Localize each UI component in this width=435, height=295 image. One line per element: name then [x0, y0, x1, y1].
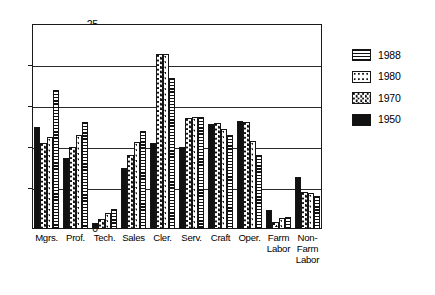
- legend-swatch-icon: [352, 92, 371, 104]
- x-axis-label: Craft: [206, 232, 235, 266]
- bar: [314, 196, 320, 229]
- legend-swatch-icon: [352, 71, 371, 83]
- bar-group: [32, 24, 61, 229]
- bar: [198, 117, 204, 229]
- legend-label: 1970: [378, 93, 401, 104]
- legend-swatch-icon: [352, 49, 371, 61]
- x-axis-label: Cler.: [148, 232, 177, 266]
- legend-swatch-icon: [352, 114, 371, 126]
- bar-group: [293, 24, 322, 229]
- legend-item[interactable]: 1980: [352, 68, 430, 86]
- x-axis-labels: Mgrs.Prof.Tech.SalesCler.Serv.CraftOper.…: [32, 232, 322, 266]
- bar-group: [264, 24, 293, 229]
- bar-chart: 25 20 15 10 5 0 Mgrs.Prof.Tech.SalesCler…: [0, 0, 435, 295]
- bar: [256, 155, 262, 229]
- x-axis-label: Serv.: [177, 232, 206, 266]
- x-axis-label: Tech.: [90, 232, 119, 266]
- bar-group: [206, 24, 235, 229]
- bar-groups: [32, 24, 322, 229]
- bar-group: [119, 24, 148, 229]
- bar: [285, 217, 291, 229]
- legend-item[interactable]: 1988: [352, 46, 430, 64]
- bar: [53, 90, 59, 229]
- bar: [227, 135, 233, 229]
- bar-group: [90, 24, 119, 229]
- bar: [140, 131, 146, 229]
- bar: [82, 122, 88, 229]
- x-axis-label: Prof.: [61, 232, 90, 266]
- bar: [169, 78, 175, 229]
- legend-item[interactable]: 1950: [352, 111, 430, 129]
- x-axis-label: Non- Farm Labor: [293, 232, 322, 266]
- x-axis-label: Oper.: [235, 232, 264, 266]
- legend-label: 1980: [378, 71, 401, 82]
- x-axis-label: Farm Labor: [264, 232, 293, 266]
- x-axis-label: Sales: [119, 232, 148, 266]
- bar-group: [235, 24, 264, 229]
- chart-legend: 1988198019701950: [352, 46, 430, 132]
- bar-group: [61, 24, 90, 229]
- bar: [111, 209, 117, 230]
- legend-label: 1988: [378, 50, 401, 61]
- x-axis-label: Mgrs.: [32, 232, 61, 266]
- legend-label: 1950: [378, 114, 401, 125]
- legend-item[interactable]: 1970: [352, 89, 430, 107]
- bar-group: [177, 24, 206, 229]
- bar-group: [148, 24, 177, 229]
